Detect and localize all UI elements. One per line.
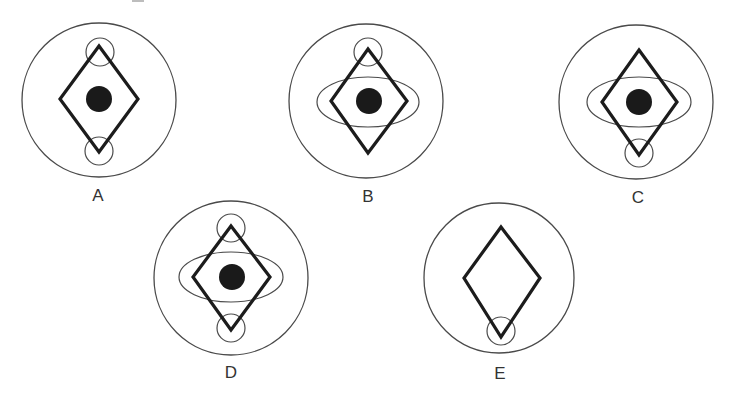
center-dot xyxy=(219,264,245,290)
option-e-figure[interactable] xyxy=(424,203,574,353)
center-dot xyxy=(86,86,112,112)
option-a-figure[interactable] xyxy=(22,23,176,177)
option-b-figure[interactable] xyxy=(289,24,443,178)
option-label-b: B xyxy=(362,188,373,205)
option-label-c: C xyxy=(632,189,644,206)
diagram-canvas: ABCDE xyxy=(0,0,730,397)
option-d-figure[interactable] xyxy=(154,201,308,355)
option-label-d: D xyxy=(225,364,237,381)
option-label-a: A xyxy=(92,187,103,204)
option-c-figure[interactable] xyxy=(559,25,713,179)
option-label-e: E xyxy=(494,365,505,382)
outer-circle xyxy=(424,203,574,353)
diamond-shape xyxy=(464,227,540,337)
center-dot xyxy=(356,88,382,114)
center-dot xyxy=(626,89,652,115)
